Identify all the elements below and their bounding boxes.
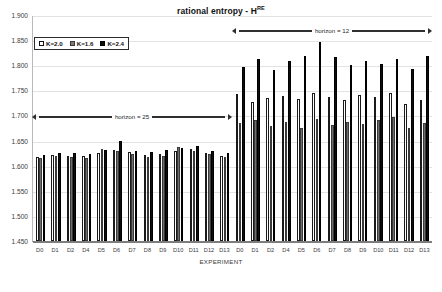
bar-k16 [101, 149, 104, 241]
bar-k16 [331, 125, 334, 241]
x-axis-title: EXPERIMENT [0, 258, 442, 265]
bar-k16 [116, 151, 119, 241]
y-axis-tick-label: 1.450 [0, 238, 28, 245]
horizon-annotation: horizon = 25 [32, 112, 232, 122]
x-axis-tick-label: D12 [201, 244, 216, 256]
bar-k20 [67, 156, 70, 241]
bar-k24 [411, 69, 414, 241]
bar-k24 [319, 42, 322, 241]
bar-k20 [420, 100, 423, 241]
bar-k16 [377, 120, 380, 241]
bar-k16 [408, 128, 411, 242]
bar-group [248, 16, 263, 241]
bar-k20 [282, 96, 285, 241]
bar-k24 [104, 150, 107, 241]
annotation-label-wrap: horizon = 12 [232, 26, 432, 36]
bar-k16 [55, 156, 58, 241]
x-axis-tick-label: D12 [401, 244, 416, 256]
x-axis-tick-label: D4 [278, 244, 293, 256]
bar-k24 [43, 155, 46, 241]
bar-k20 [343, 100, 346, 241]
bar-k20 [82, 156, 85, 241]
gridline [33, 242, 432, 243]
bar-group [340, 16, 355, 241]
bar-k24 [273, 70, 276, 241]
x-axis-tick-label: D2 [63, 244, 78, 256]
x-axis-tick-label: D7 [124, 244, 139, 256]
x-axis-tick-label: D9 [155, 244, 170, 256]
x-axis-tick-label: D6 [309, 244, 324, 256]
y-axis-tick-label: 1.750 [0, 87, 28, 94]
y-axis-tick-label: 1.800 [0, 62, 28, 69]
bar-k20 [174, 151, 177, 241]
y-axis-tick-label: 1.600 [0, 163, 28, 170]
bar-k16 [70, 157, 73, 241]
bar-k16 [224, 157, 227, 241]
x-axis-tick-label: D5 [294, 244, 309, 256]
bar-k16 [254, 120, 257, 241]
x-axis-tick-label: D9 [355, 244, 370, 256]
x-axis-tick-label: D13 [417, 244, 432, 256]
x-axis-tick-label: D1 [247, 244, 262, 256]
bar-k16 [316, 119, 319, 241]
annotation-label: horizon = 12 [312, 27, 352, 34]
bar-k24 [426, 56, 429, 241]
legend-item-k24: K=2.4 [100, 40, 124, 47]
x-axis-tick-label: D0 [32, 244, 47, 256]
bar-group [279, 16, 294, 241]
y-axis-tick-label: 1.700 [0, 112, 28, 119]
x-axis-tick-label: D10 [171, 244, 186, 256]
x-axis-tick-label: D11 [186, 244, 201, 256]
bar-k16 [362, 124, 365, 241]
chart-title: rational entropy - HRE [0, 5, 442, 16]
bar-k20 [358, 95, 361, 241]
bar-group [386, 16, 401, 241]
legend-swatch-icon-k20 [39, 41, 44, 46]
bar-k24 [257, 59, 260, 241]
bar-k24 [196, 146, 199, 241]
bar-k24 [150, 152, 153, 241]
bar-k16 [392, 117, 395, 241]
bar-k16 [423, 123, 426, 241]
legend-swatch-icon-k16 [70, 41, 75, 46]
y-axis-tick-label: 1.850 [0, 37, 28, 44]
bar-k20 [220, 156, 223, 241]
y-axis-tick-label: 1.650 [0, 138, 28, 145]
bar-k20 [236, 94, 239, 241]
bar-k16 [39, 158, 42, 241]
legend-label-k16: K=1.6 [77, 40, 94, 47]
bar-k20 [374, 97, 377, 241]
bar-group [156, 16, 171, 241]
bar-k20 [159, 154, 162, 241]
bar-k20 [190, 149, 193, 241]
bar-k24 [227, 153, 230, 241]
x-axis-tick-labels: D0D1D2D4D5D6D7D8D9D10D11D12D13D0D1D2D4D5… [32, 244, 432, 256]
x-axis-tick-label: D5 [94, 244, 109, 256]
annotation-label-wrap: horizon = 25 [32, 112, 232, 122]
bar-k20 [97, 153, 100, 241]
x-axis-tick-label: D6 [109, 244, 124, 256]
bar-k24 [73, 153, 76, 241]
bar-k24 [350, 65, 353, 241]
bar-k20 [266, 98, 269, 241]
legend-item-k20: K=2.0 [39, 40, 63, 47]
bar-k24 [165, 150, 168, 241]
bar-group [263, 16, 278, 241]
bar-group [217, 16, 232, 241]
bar-k24 [211, 151, 214, 241]
bar-group [309, 16, 324, 241]
x-axis-tick-label: D11 [386, 244, 401, 256]
y-axis-tick-label: 1.500 [0, 213, 28, 220]
x-axis-tick-label: D10 [371, 244, 386, 256]
bar-k16 [147, 157, 150, 241]
bar-group [171, 16, 186, 241]
chart-title-text: rational entropy - H [177, 6, 257, 16]
bar-group [202, 16, 217, 241]
x-axis-tick-label: D4 [78, 244, 93, 256]
annotation-label: horizon = 25 [112, 113, 152, 120]
chart-title-superscript: RE [257, 5, 265, 11]
horizon-annotation: horizon = 12 [232, 26, 432, 36]
bar-k16 [162, 156, 165, 241]
bar-k16 [208, 154, 211, 241]
chart-legend: K=2.0 K=1.6 K=2.4 [34, 37, 129, 50]
